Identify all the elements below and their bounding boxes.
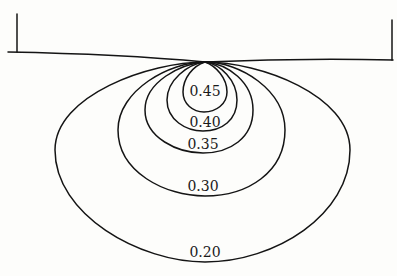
contour-label-0-40: 0.40: [189, 114, 220, 130]
contour-label-0-30: 0.30: [187, 178, 218, 194]
surface-line: [8, 52, 393, 62]
contour-label-0-45: 0.45: [189, 83, 220, 99]
contour-label-0-20: 0.20: [189, 244, 220, 260]
contour-label-0-35: 0.35: [187, 136, 218, 152]
contour-diagram: 0.45 0.40 0.35 0.30 0.20: [0, 0, 397, 276]
